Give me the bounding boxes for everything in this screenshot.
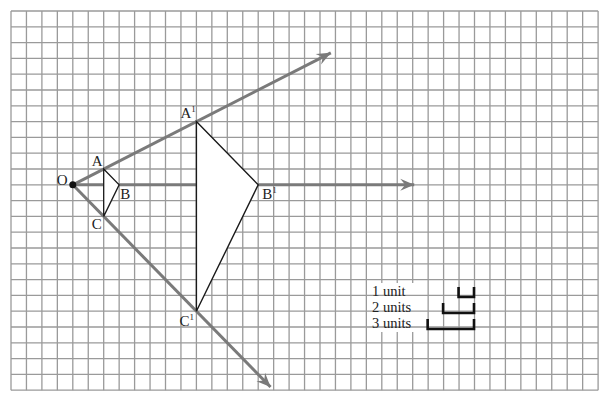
vertex-label-B: B bbox=[120, 186, 130, 202]
vertex-label-B-prime: B1 bbox=[262, 185, 277, 202]
vertex-label-A-prime: A1 bbox=[180, 104, 195, 121]
center-label-O: O bbox=[57, 172, 68, 188]
prime-mark: 1 bbox=[272, 185, 277, 195]
legend-label-2: 2 units bbox=[372, 299, 411, 315]
unit-legend: 1 unit2 units3 units bbox=[368, 283, 474, 332]
enlargement-diagram: OABCA1B1C1 1 unit2 units3 units bbox=[0, 0, 606, 398]
legend-label-1: 1 unit bbox=[372, 283, 405, 299]
center-point bbox=[69, 181, 76, 188]
rays bbox=[73, 53, 414, 387]
prime-mark: 1 bbox=[191, 104, 196, 114]
legend-label-3: 3 units bbox=[372, 315, 411, 331]
vertex-label-A: A bbox=[92, 153, 103, 169]
prime-mark: 1 bbox=[189, 312, 194, 322]
original-triangle bbox=[104, 169, 119, 216]
vertex-label-C: C bbox=[92, 216, 102, 232]
